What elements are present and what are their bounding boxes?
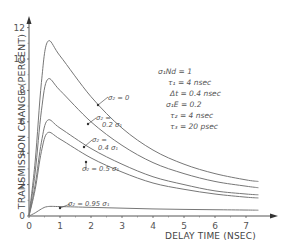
param-delta-t: Δt = 0.4 nsec [170, 88, 221, 99]
annotation-leader [84, 140, 92, 147]
param-tau1: τ₁ = 4 nsec [168, 77, 221, 88]
param-tau2: τ₂ = 4 nsec [170, 110, 221, 121]
curve-0 [29, 41, 258, 216]
x-tick-label: 1 [57, 221, 63, 231]
y-axis-arrow [27, 16, 32, 24]
plot-area: 01234567024681012 [0, 0, 286, 251]
x-tick-label: 5 [181, 221, 187, 231]
x-axis-arrow [270, 214, 278, 219]
param-tau3: τ₃ = 20 psec [170, 121, 221, 132]
curve-2 [29, 120, 258, 216]
x-tick-label: 6 [212, 221, 218, 231]
x-tick-label: 4 [150, 221, 156, 231]
annotation-leader [98, 97, 108, 105]
parameter-block: σ₁Nd = 1 τ₁ = 4 nsec Δt = 0.4 nsec σ₁E =… [158, 66, 221, 132]
x-tick-label: 7 [243, 221, 249, 231]
x-tick-label: 3 [119, 221, 125, 231]
param-sigma-e: σ₁E = 0.2 [166, 99, 221, 110]
y-axis-label-text: TRANSMISSION CHANGE (PERCENT) [16, 27, 27, 217]
curve-label-s04b: 0.4 σ₁ [98, 144, 118, 152]
chart-root: 01234567024681012 TRANSMISSION CHANGE (P… [0, 0, 286, 251]
curve-label-s04a: σ₂ = [92, 136, 107, 144]
x-axis-label: DELAY TIME (NSEC) [165, 231, 256, 241]
param-sigma-nd: σ₁Nd = 1 [158, 66, 221, 77]
curve-label-s095: σ₂ = 0.95 σ₁ [68, 200, 109, 208]
y-axis-label: TRANSMISSION CHANGE (PERCENT) [14, 28, 28, 218]
curve-4 [29, 206, 258, 216]
x-tick-label: 2 [88, 221, 94, 231]
curve-label-s02b: 0.2 σ₁ [102, 121, 122, 129]
x-tick-label: 0 [26, 221, 32, 231]
curve-label-s0: σ₂ = 0 [108, 94, 129, 102]
curve-label-s05: σ₂ = 0.5 σ₁ [82, 165, 119, 173]
